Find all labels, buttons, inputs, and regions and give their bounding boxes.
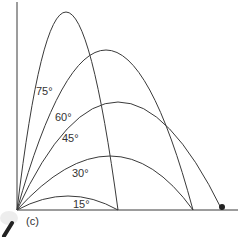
ball-icon (219, 204, 225, 210)
angle-label-45: 45° (62, 133, 79, 144)
cannon-icon (0, 211, 18, 236)
trajectory-60deg (17, 50, 193, 210)
angle-label-15: 15° (73, 199, 90, 210)
trajectory-15deg (17, 196, 118, 210)
trajectory-30deg (17, 156, 193, 210)
figure-caption: (c) (26, 216, 39, 227)
angle-label-75: 75° (36, 86, 53, 97)
angle-label-30: 30° (72, 168, 89, 179)
trajectory-curves (17, 12, 222, 210)
angle-label-60: 60° (55, 112, 72, 123)
trajectory-diagram (0, 0, 245, 237)
